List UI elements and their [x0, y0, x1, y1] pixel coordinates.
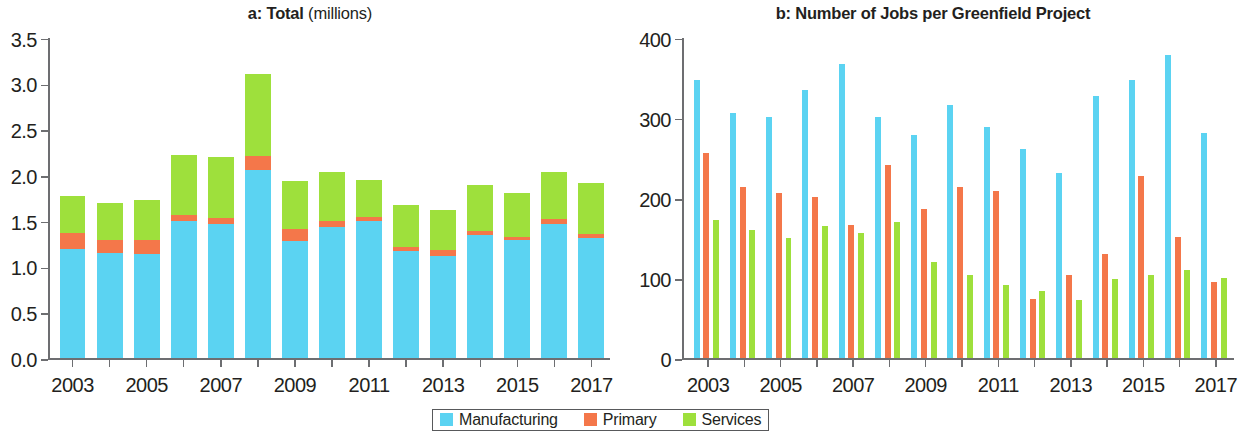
bar-services — [1112, 279, 1118, 358]
x-tick — [183, 360, 185, 367]
bar-services — [749, 230, 755, 358]
bar-segment-manufacturing — [504, 240, 530, 358]
bar-segment-primary — [430, 250, 456, 255]
y-tick-label: 100 — [639, 268, 671, 291]
bar-manufacturing — [694, 80, 700, 359]
bar-primary — [957, 187, 963, 358]
y-tick — [41, 313, 48, 315]
bar-segment-manufacturing — [467, 235, 493, 359]
bar-primary — [1102, 254, 1108, 358]
y-tick-label: 3.0 — [11, 74, 37, 97]
bar-segment-services — [578, 183, 604, 234]
bar-segment-primary — [356, 217, 382, 222]
bar-services — [1076, 300, 1082, 358]
y-tick-label: 2.5 — [11, 120, 37, 143]
bar-manufacturing — [1129, 80, 1135, 359]
panel-b-title-bold: b: Number of Jobs per Greenfield Project — [776, 4, 1091, 22]
bar-segment-services — [319, 172, 345, 221]
x-tick — [146, 360, 148, 367]
panel-a: a: Total (millions) 0.00.51.01.52.02.53.… — [0, 0, 620, 400]
bar-services — [1221, 278, 1227, 358]
bar-segment-primary — [282, 229, 308, 241]
stacked-bar — [60, 38, 86, 358]
bar-segment-services — [430, 210, 456, 250]
bar-primary — [740, 187, 746, 358]
y-tick-label: 200 — [639, 188, 671, 211]
y-tick — [41, 39, 48, 41]
panel-a-x-axis — [48, 358, 610, 360]
y-tick — [41, 130, 48, 132]
bar-services — [858, 233, 864, 359]
bar-primary — [921, 209, 927, 358]
bar-segment-manufacturing — [171, 221, 197, 358]
bar-segment-manufacturing — [356, 221, 382, 358]
y-tick-label: 0.5 — [11, 303, 37, 326]
y-tick — [41, 222, 48, 224]
bar-primary — [776, 193, 782, 358]
x-tick — [294, 360, 296, 367]
panel-b: b: Number of Jobs per Greenfield Project… — [620, 0, 1246, 400]
x-tick-label: 2009 — [274, 374, 317, 397]
x-tick — [368, 360, 370, 367]
bar-primary — [1030, 299, 1036, 358]
bar-services — [1039, 291, 1045, 358]
bar-services — [967, 275, 973, 358]
x-tick-label: 2007 — [832, 374, 875, 397]
bar-manufacturing — [839, 64, 845, 358]
bar-primary — [1066, 275, 1072, 358]
x-tick — [925, 360, 927, 367]
stacked-bar — [171, 38, 197, 358]
x-tick — [1070, 360, 1072, 367]
panel-a-y-axis — [48, 38, 50, 360]
y-tick — [675, 359, 682, 361]
y-tick-label: 1.0 — [11, 257, 37, 280]
y-tick-label: 400 — [639, 28, 671, 51]
bar-segment-services — [208, 157, 234, 218]
panel-a-title-bold: a: Total — [248, 4, 304, 22]
bar-segment-manufacturing — [97, 253, 123, 358]
bar-segment-manufacturing — [430, 256, 456, 359]
bar-segment-manufacturing — [578, 238, 604, 359]
bar-primary — [848, 225, 854, 358]
bar-primary — [993, 191, 999, 358]
stacked-bar — [134, 38, 160, 358]
stacked-bar — [578, 38, 604, 358]
legend-entry: Manufacturing — [440, 411, 558, 429]
bar-segment-primary — [578, 234, 604, 238]
stacked-bar — [282, 38, 308, 358]
bar-segment-services — [504, 193, 530, 237]
bar-manufacturing — [947, 105, 953, 359]
bar-primary — [812, 197, 818, 359]
bar-services — [713, 220, 719, 359]
stacked-bar — [430, 38, 456, 358]
x-tick — [780, 360, 782, 367]
bar-manufacturing — [1093, 96, 1099, 359]
x-tick-label: 2015 — [1122, 374, 1165, 397]
bar-segment-primary — [319, 221, 345, 226]
x-tick — [889, 360, 891, 367]
bar-segment-manufacturing — [319, 227, 345, 359]
stacked-bar — [467, 38, 493, 358]
x-tick — [405, 360, 407, 367]
x-tick — [591, 360, 593, 367]
x-tick-label: 2003 — [687, 374, 730, 397]
figure-root: a: Total (millions) 0.00.51.01.52.02.53.… — [0, 0, 1246, 436]
bar-segment-primary — [60, 233, 86, 249]
bar-segment-manufacturing — [541, 224, 567, 359]
bar-manufacturing — [875, 117, 881, 359]
x-tick — [554, 360, 556, 367]
y-tick — [41, 85, 48, 87]
bar-segment-services — [171, 155, 197, 215]
bar-manufacturing — [1201, 133, 1207, 359]
bar-segment-services — [356, 180, 382, 217]
bar-manufacturing — [730, 113, 736, 358]
x-tick — [1143, 360, 1145, 367]
stacked-bar — [97, 38, 123, 358]
bar-services — [931, 262, 937, 358]
x-tick — [72, 360, 74, 367]
bar-segment-manufacturing — [245, 170, 271, 359]
bar-segment-services — [245, 74, 271, 156]
x-tick — [442, 360, 444, 367]
bar-segment-primary — [467, 231, 493, 235]
panel-b-title: b: Number of Jobs per Greenfield Project — [620, 4, 1246, 23]
